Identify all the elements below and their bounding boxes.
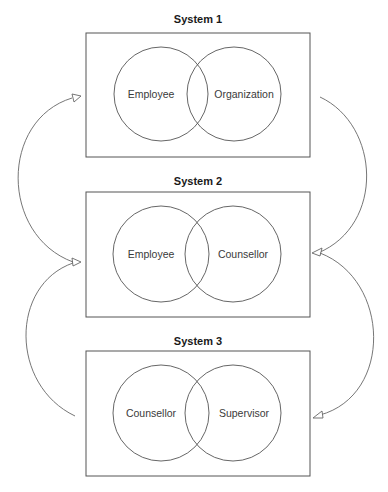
system-2: System 2 Employee Counsellor bbox=[86, 175, 310, 317]
arc-right-lower bbox=[320, 253, 374, 415]
arrow-system1-to-system2 bbox=[312, 97, 367, 256]
arc-left-lower bbox=[26, 263, 75, 416]
system-2-left-label: Employee bbox=[128, 248, 175, 260]
system-2-title: System 2 bbox=[174, 175, 222, 187]
systems-diagram: System 1 Employee Organization System 2 … bbox=[0, 0, 388, 492]
system-3-box bbox=[86, 351, 310, 476]
system-1-title: System 1 bbox=[174, 13, 222, 25]
system-2-right-label: Counsellor bbox=[218, 248, 269, 260]
system-3-title: System 3 bbox=[174, 335, 222, 347]
arc-right-upper bbox=[318, 97, 367, 253]
arrowhead-left-icon bbox=[312, 248, 322, 256]
system-1-box bbox=[86, 33, 310, 157]
system-1: System 1 Employee Organization bbox=[86, 13, 310, 157]
arrowhead-right-icon bbox=[72, 94, 81, 102]
arrow-system3-to-system2 bbox=[26, 258, 81, 416]
arc-left-upper bbox=[18, 98, 73, 262]
system-3: System 3 Counsellor Supervisor bbox=[86, 335, 310, 476]
arrow-system2-to-system3 bbox=[313, 253, 374, 418]
arrowhead-right-icon bbox=[72, 258, 81, 266]
system-2-box bbox=[86, 192, 310, 317]
arrowhead-left-icon bbox=[313, 411, 323, 418]
system-3-right-label: Supervisor bbox=[219, 407, 270, 419]
system-3-left-label: Counsellor bbox=[126, 407, 177, 419]
system-1-right-label: Organization bbox=[214, 88, 274, 100]
arrow-system2-to-system1 bbox=[18, 94, 81, 262]
system-1-left-label: Employee bbox=[128, 88, 175, 100]
